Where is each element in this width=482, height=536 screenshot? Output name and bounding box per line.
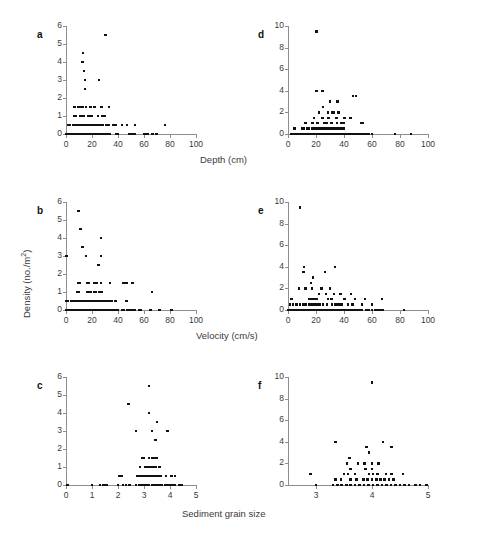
data-point <box>85 106 88 109</box>
data-point <box>371 462 374 465</box>
data-point <box>143 457 146 460</box>
data-point <box>364 298 367 301</box>
data-point <box>170 309 173 312</box>
y-tick-label-c-0: 0 <box>40 480 62 489</box>
panel-letter-e: e <box>258 206 264 216</box>
data-point <box>358 484 361 487</box>
x-tick-e-1 <box>316 311 317 314</box>
data-point <box>89 106 92 109</box>
x-tick-label-e-0: 0 <box>274 316 302 325</box>
data-point <box>126 124 129 127</box>
data-point <box>336 484 339 487</box>
data-point <box>364 468 367 471</box>
y-tick-label-a-3: 3 <box>40 75 62 84</box>
data-point <box>355 478 358 481</box>
data-point <box>116 309 119 312</box>
data-point <box>100 282 103 285</box>
x-tick-b-0 <box>66 311 67 314</box>
y-tick-c-5 <box>63 395 66 396</box>
data-point <box>372 473 375 476</box>
data-point <box>335 117 338 120</box>
x-tick-a-3 <box>144 135 145 138</box>
x-tick-c-2 <box>118 486 119 489</box>
y-tick-f-1 <box>285 463 288 464</box>
data-point <box>371 133 374 136</box>
data-point <box>327 298 330 301</box>
data-point <box>326 303 329 306</box>
data-point <box>334 266 337 269</box>
x-tick-a-1 <box>92 135 93 138</box>
data-point <box>135 430 138 433</box>
data-point <box>354 473 357 476</box>
x-tick-c-3 <box>144 486 145 489</box>
data-point <box>97 264 100 267</box>
data-point <box>368 473 371 476</box>
data-point <box>170 475 173 478</box>
x-tick-label-b-1: 20 <box>78 316 106 325</box>
x-tick-label-a-4: 80 <box>156 140 184 149</box>
data-point <box>408 484 411 487</box>
y-tick-b-1 <box>63 292 66 293</box>
y-tick-label-d-2: 4 <box>262 86 284 95</box>
data-point <box>108 133 111 136</box>
data-point <box>325 122 328 125</box>
data-point <box>351 303 354 306</box>
data-point <box>104 115 107 118</box>
data-point <box>305 122 308 125</box>
data-point <box>377 462 380 465</box>
y-tick-label-a-6: 6 <box>40 21 62 30</box>
data-point <box>341 303 344 306</box>
data-point <box>164 124 167 127</box>
data-point <box>93 106 96 109</box>
x-axis-title-depth: Depth (cm) <box>200 154 247 165</box>
data-point <box>165 475 168 478</box>
y-tick-e-3 <box>285 245 288 246</box>
data-point <box>117 133 120 136</box>
data-point <box>327 117 330 120</box>
y-tick-label-e-1: 2 <box>262 283 284 292</box>
x-tick-label-b-2: 40 <box>104 316 132 325</box>
x-tick-label-b-0: 0 <box>52 316 80 325</box>
data-point <box>336 122 339 125</box>
data-point <box>302 127 305 130</box>
data-point <box>349 484 352 487</box>
data-point <box>315 30 318 33</box>
y-tick-c-6 <box>63 377 66 378</box>
data-point <box>123 309 126 312</box>
data-point <box>399 484 402 487</box>
panel-letter-d: d <box>258 30 264 40</box>
data-point <box>394 133 397 136</box>
y-tick-label-d-4: 8 <box>262 43 284 52</box>
data-point <box>100 237 103 240</box>
x-tick-e-5 <box>428 311 429 314</box>
data-point <box>147 133 150 136</box>
x-tick-c-0 <box>66 486 67 489</box>
y-tick-e-1 <box>285 288 288 289</box>
data-point <box>100 106 103 109</box>
x-tick-label-a-5: 100 <box>182 140 210 149</box>
data-point <box>100 291 103 294</box>
data-point <box>410 133 413 136</box>
data-point <box>381 298 384 301</box>
x-tick-b-2 <box>118 311 119 314</box>
x-tick-c-5 <box>196 486 197 489</box>
data-point <box>156 457 159 460</box>
y-tick-f-5 <box>285 377 288 378</box>
y-tick-label-b-5: 5 <box>40 215 62 224</box>
data-point <box>109 282 112 285</box>
x-tick-b-1 <box>92 311 93 314</box>
data-point <box>133 309 136 312</box>
x-tick-label-c-3: 3 <box>130 491 158 500</box>
data-point <box>84 88 87 91</box>
y-tick-label-e-4: 8 <box>262 219 284 228</box>
data-point <box>148 385 151 388</box>
y-tick-a-1 <box>63 116 66 117</box>
data-point <box>332 111 335 114</box>
data-point <box>349 478 352 481</box>
data-point <box>149 309 152 312</box>
data-point <box>104 34 107 37</box>
y-tick-label-d-5: 10 <box>262 21 284 30</box>
data-point <box>343 298 346 301</box>
data-point <box>158 466 161 469</box>
x-tick-label-e-3: 60 <box>358 316 386 325</box>
